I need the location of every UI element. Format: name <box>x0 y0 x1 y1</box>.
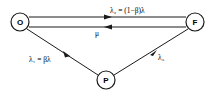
node-p-label: P <box>103 76 109 85</box>
arrow-left-icon <box>104 25 112 30</box>
node-o: O <box>11 13 29 31</box>
node-f: F <box>186 13 204 31</box>
node-p: P <box>97 71 115 89</box>
edge-o-to-f <box>29 15 186 20</box>
edge-label-lambda2: λ₂ = (1−β)λ <box>110 6 145 15</box>
node-f-label: F <box>193 18 198 27</box>
edge-o-to-p <box>27 29 98 75</box>
edge-label-lambda1: λ₁ = βλ <box>29 55 51 64</box>
diagram-canvas: O F P λ₂ = (1−β)λ μ λ₁ = βλ λ₃ <box>0 0 216 95</box>
node-o-label: O <box>17 18 23 27</box>
edge-p-to-f <box>114 29 188 75</box>
edge-label-lambda3: λ₃ <box>158 53 165 62</box>
arrow-right-icon <box>104 15 112 20</box>
edge-label-mu: μ <box>95 29 99 38</box>
edge-f-to-o <box>29 25 186 30</box>
